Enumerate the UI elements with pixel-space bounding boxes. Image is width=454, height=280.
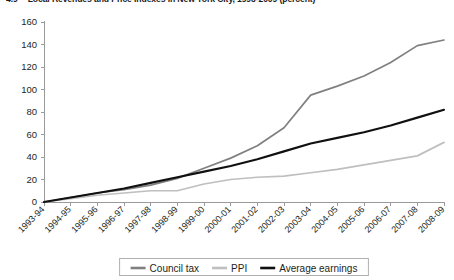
x-tick-label: 1997-98	[123, 204, 153, 234]
x-tick-label: 2005-06	[336, 204, 366, 234]
y-tick-labels: 020406080100120140160	[21, 16, 37, 207]
x-tick-label: 2006-07	[363, 204, 393, 234]
x-tick-label: 2001-02	[229, 204, 259, 234]
x-tick-label: 2000-01	[203, 204, 233, 234]
legend-label: PPI	[231, 263, 247, 274]
series-group	[44, 40, 444, 202]
legend-label: Average earnings	[279, 263, 357, 274]
line-chart: 020406080100120140160 1993-941994-951995…	[0, 0, 454, 280]
legend-label: Council tax	[150, 263, 199, 274]
chart-legend: Council taxPPIAverage earnings	[120, 259, 369, 276]
x-tick-label: 1993-94	[16, 204, 46, 234]
y-tick-label: 80	[26, 106, 37, 117]
y-tick-label: 100	[21, 84, 37, 95]
y-tick-group	[41, 22, 45, 202]
series-line	[44, 110, 444, 202]
y-tick-label: 40	[26, 151, 37, 162]
figure-title-text: Local Revenues and Price Indexes in New …	[28, 0, 316, 4]
y-tick-label: 60	[26, 129, 37, 140]
x-tick-label: 1996-97	[96, 204, 126, 234]
x-tick-label: 1999-00	[176, 204, 206, 234]
x-tick-label: 2003-04	[283, 204, 313, 234]
x-tick-label: 2008-09	[416, 204, 446, 234]
x-tick-label: 2002-03	[256, 204, 286, 234]
y-tick-label: 20	[26, 174, 37, 185]
figure-container: 4.9Local Revenues and Price Indexes in N…	[0, 0, 454, 280]
figure-title: 4.9Local Revenues and Price Indexes in N…	[6, 0, 454, 5]
y-tick-label: 140	[21, 39, 37, 50]
x-tick-label: 1998-99	[149, 204, 179, 234]
x-tick-label: 2007-08	[389, 204, 419, 234]
y-tick-label: 120	[21, 61, 37, 72]
y-axis: 020406080100120140160	[21, 16, 44, 207]
x-tick-labels: 1993-941994-951995-961996-971997-981998-…	[16, 204, 446, 234]
y-tick-label: 0	[32, 196, 37, 207]
y-tick-label: 160	[21, 16, 37, 27]
x-tick-label: 2004-05	[309, 204, 339, 234]
x-tick-label: 1995-96	[69, 204, 99, 234]
x-tick-label: 1994-95	[43, 204, 73, 234]
x-axis: 1993-941994-951995-961996-971997-981998-…	[16, 202, 446, 235]
figure-number: 4.9	[6, 0, 18, 4]
